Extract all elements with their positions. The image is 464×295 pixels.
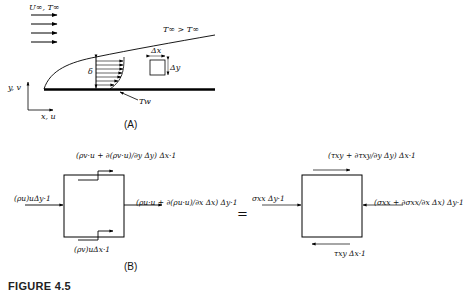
right-stress-label: (σxx + ∂σxx/∂x Δx) Δy·1	[374, 199, 464, 207]
edge-temp-label: T∞ > T∞	[163, 26, 199, 34]
coordinate-axes	[28, 82, 53, 110]
freestream-arrows	[31, 15, 57, 42]
part-a-label: (A)	[124, 119, 137, 130]
top-stress-label: (τxy + ∂τxy/∂y Δy) Δx·1	[328, 152, 416, 160]
control-volume-right	[302, 175, 362, 237]
wall-temp-leader	[120, 92, 138, 100]
axis-x-label: x, u	[41, 113, 56, 121]
element-dy-label: Δy	[170, 64, 180, 72]
axis-y-label: y, v	[8, 84, 21, 92]
left-stress-label: σxx Δy·1	[252, 195, 285, 203]
velocity-profile	[96, 57, 124, 89]
top-flux-label: (ρv·u + ∂(ρv·u)/∂y Δy) Δx·1	[76, 152, 176, 160]
bottom-stress-label: τxy Δx·1	[334, 250, 366, 258]
bottom-flux-label: (ρv)uΔx·1	[74, 246, 110, 254]
left-flux-label: (ρu)uΔy·1	[14, 195, 51, 203]
right-flux-label: (ρu·u + ∂(ρu·u)/∂x Δx) Δy·1	[136, 199, 237, 207]
wall-temp-label: Tw	[139, 98, 151, 106]
boundary-layer-edge	[44, 35, 215, 89]
element-dx-label: Δx	[151, 47, 161, 55]
figure-caption: FIGURE 4.5	[8, 280, 71, 292]
thickness-label: δ	[88, 68, 93, 76]
freestream-label: U∞, T∞	[29, 4, 60, 12]
bottom-flux-arrow	[78, 231, 113, 240]
fluid-element	[150, 56, 168, 75]
part-b-label: (B)	[124, 261, 137, 272]
control-volume-left	[64, 175, 124, 237]
equals-sign: =	[237, 206, 248, 221]
